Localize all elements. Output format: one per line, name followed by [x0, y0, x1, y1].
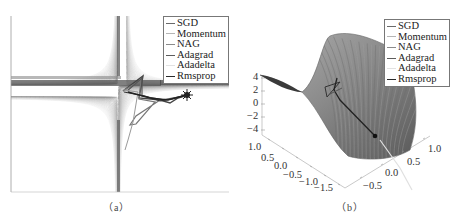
- z-tick: 0: [253, 97, 258, 108]
- z-tick: 4: [253, 71, 258, 82]
- panel-b-surface-plot: SGDMomentumNAGAdagradAdadeltaRmsprop 4 2…: [230, 0, 460, 217]
- x-tick: 0.5: [261, 152, 274, 163]
- legend-swatch-icon: [166, 55, 175, 56]
- legend-swatch-icon: [166, 33, 175, 34]
- legend-item-rmsprop: Rmsprop: [387, 74, 447, 85]
- legend-swatch-icon: [166, 65, 175, 66]
- panel-a-contour-plot: SGDMomentumNAGAdagradAdadeltaRmsprop （a）: [0, 0, 230, 217]
- legend-swatch-icon: [166, 23, 175, 24]
- legend-swatch-icon: [166, 76, 175, 77]
- legend-item-sgd: SGD: [166, 18, 226, 29]
- caption-a: （a）: [103, 199, 130, 214]
- legend-swatch-icon: [387, 68, 396, 69]
- legend-label: SGD: [398, 21, 419, 32]
- legend-swatch-icon: [387, 79, 396, 80]
- z-tick: −4: [247, 123, 258, 134]
- legend-b: SGDMomentumNAGAdagradAdadeltaRmsprop: [384, 19, 450, 87]
- legend-item-rmsprop: Rmsprop: [166, 71, 226, 82]
- x-tick: −1.5: [314, 182, 333, 193]
- legend-swatch-icon: [387, 58, 396, 59]
- z-tick: 2: [253, 84, 258, 95]
- x-tick: 1.0: [248, 141, 261, 152]
- y-tick: 0.5: [407, 156, 420, 167]
- legend-swatch-icon: [387, 47, 396, 48]
- y-tick: 0.0: [385, 167, 398, 178]
- legend-swatch-icon: [166, 44, 175, 45]
- legend-swatch-icon: [387, 36, 396, 37]
- y-tick: −0.5: [363, 180, 382, 191]
- legend-a: SGDMomentumNAGAdagradAdadeltaRmsprop: [163, 16, 229, 84]
- legend-item-sgd: SGD: [387, 21, 447, 32]
- legend-swatch-icon: [387, 26, 396, 27]
- y-tick: 1.0: [428, 143, 441, 154]
- legend-label: SGD: [177, 18, 198, 29]
- z-tick: −2: [247, 110, 258, 121]
- legend-label: Rmsprop: [177, 71, 216, 82]
- legend-label: Rmsprop: [398, 74, 437, 85]
- caption-b: （b）: [336, 199, 364, 214]
